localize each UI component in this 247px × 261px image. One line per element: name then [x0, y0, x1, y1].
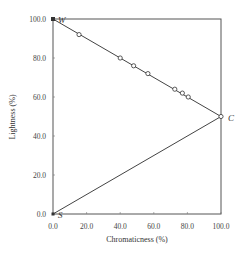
- x-tick-label: 0.0: [48, 222, 58, 231]
- y-axis-label: Lightness (%): [8, 94, 17, 139]
- x-tick-label: 80.0: [181, 222, 194, 231]
- plot-frame: [53, 19, 221, 214]
- x-tick-label: 100.0: [213, 222, 230, 231]
- vertex-labels: WCS: [58, 15, 235, 220]
- data-point-marker: [219, 114, 223, 118]
- data-points: [51, 17, 223, 216]
- y-tick-label: 0.0: [37, 210, 47, 219]
- data-point-marker: [173, 87, 177, 91]
- x-axis-label: Chromaticness (%): [106, 235, 168, 244]
- y-tick-label: 100.0: [29, 15, 46, 24]
- white-vertex-marker: [51, 17, 55, 21]
- y-tick-label: 40.0: [33, 132, 46, 141]
- data-point-marker: [118, 56, 122, 60]
- data-point-marker: [132, 64, 136, 68]
- vertex-label-w: W: [58, 15, 67, 25]
- y-tick-label: 80.0: [33, 54, 46, 63]
- data-point-marker: [77, 33, 81, 37]
- x-tick-label: 60.0: [147, 222, 160, 231]
- triangle-lines: [53, 19, 221, 214]
- y-tick-label: 20.0: [33, 171, 46, 180]
- black-to-color-line: [53, 117, 221, 215]
- black-vertex-marker: [52, 213, 55, 216]
- data-point-marker: [146, 72, 150, 76]
- y-tick-label: 60.0: [33, 93, 46, 102]
- data-point-marker: [180, 91, 184, 95]
- x-tick-label: 20.0: [80, 222, 93, 231]
- x-tick-label: 40.0: [114, 222, 127, 231]
- vertex-label-s: S: [58, 210, 63, 220]
- data-point-marker: [186, 95, 190, 99]
- vertex-label-c: C: [228, 113, 235, 123]
- chromaticness-lightness-chart: 0.020.040.060.080.0100.00.020.040.060.08…: [0, 0, 247, 261]
- axis-ticks: 0.020.040.060.080.0100.00.020.040.060.08…: [29, 15, 230, 232]
- plot-border: [53, 19, 221, 214]
